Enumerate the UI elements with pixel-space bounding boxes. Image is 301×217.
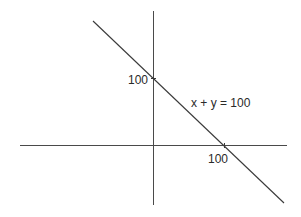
x-intercept-label: 100: [208, 153, 228, 165]
diagram-canvas: 100 100 x + y = 100: [0, 0, 301, 217]
y-intercept-label: 100: [128, 74, 148, 86]
equation-label: x + y = 100: [191, 97, 250, 109]
graph-svg: [0, 0, 301, 217]
equation-line: [93, 21, 284, 203]
